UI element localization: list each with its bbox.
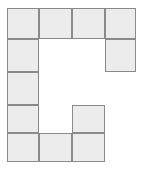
grid-cell-r3c1 bbox=[7, 72, 39, 105]
grid-cell-r2c1 bbox=[7, 39, 39, 72]
grid-cell-r1c1 bbox=[7, 8, 39, 39]
grid-cell-r5c1 bbox=[7, 133, 39, 162]
grid-cell-r4c1 bbox=[7, 105, 39, 133]
grid-cell-r1c2 bbox=[39, 8, 72, 39]
grid-cell-r5c3 bbox=[72, 133, 105, 162]
grid-cell-r5c2 bbox=[39, 133, 72, 162]
polyomino-figure bbox=[0, 0, 143, 170]
grid-cell-r1c4 bbox=[105, 8, 136, 39]
grid-cell-r1c3 bbox=[72, 8, 105, 39]
grid-cell-r2c4 bbox=[105, 39, 136, 72]
grid-cell-r4c3 bbox=[72, 105, 105, 133]
